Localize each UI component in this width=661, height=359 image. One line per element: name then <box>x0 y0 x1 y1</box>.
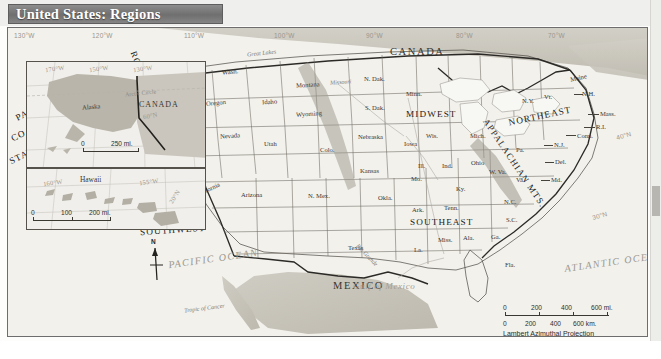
scrollbar-thumb[interactable] <box>652 186 660 216</box>
scale-tick-0 <box>505 312 506 316</box>
leader-line-nh <box>574 94 583 95</box>
state-label-va: Va. <box>516 176 525 183</box>
leader-line-ri <box>584 127 595 128</box>
map-page: United States: Regions <box>0 0 661 359</box>
compass-north-label: N <box>151 238 156 245</box>
hawaii-land-label: Hawaii <box>80 175 101 184</box>
state-label-idaho: Idaho <box>262 97 277 105</box>
leader-line-del <box>545 162 554 163</box>
state-label-ill: Ill. <box>418 162 426 169</box>
state-label-la: La. <box>414 246 423 253</box>
state-label-minn: Minn. <box>406 90 422 97</box>
lon-label-130w: 130°W <box>14 32 35 39</box>
scale-mi-200: 200 <box>531 304 542 311</box>
state-label-sdak: S. Dak. <box>365 104 385 111</box>
scale-tick-1 <box>539 312 540 316</box>
state-label-md: Md. <box>551 176 562 183</box>
scale-km-200: 200 <box>525 320 536 327</box>
country-label-canada: CANADA <box>390 46 445 57</box>
compass-rose: N <box>147 240 167 286</box>
lon-label-90w: 90°W <box>366 32 383 39</box>
state-label-ny: N.Y. <box>522 97 534 104</box>
state-label-nj: N.J. <box>554 141 565 148</box>
alaska-scale-tick-0 <box>83 148 84 152</box>
scale-km-0: 0 <box>503 320 507 327</box>
compass-needle-icon <box>147 240 167 282</box>
state-label-nevada: Nevada <box>220 131 241 139</box>
inset-map-alaska: 170°W 150°W 130°W 60°N Arctic Circle Ala… <box>26 61 206 168</box>
alaska-scale-bar: 0 250 mi. <box>81 140 151 156</box>
main-scale-bar: 0 200 400 600 mi. 0 200 400 600 km. Lamb… <box>503 304 628 336</box>
hawaii-scale-tick-2 <box>110 217 111 221</box>
page-title: United States: Regions <box>16 6 161 23</box>
state-label-nc: N.C. <box>504 198 516 205</box>
state-label-pa: Pa. <box>516 146 524 153</box>
state-label-conn: Conn. <box>577 132 593 139</box>
scale-mi-0: 0 <box>503 304 507 311</box>
hawaii-scale-0: 0 <box>31 209 35 216</box>
hawaii-scale-bar: 0 100 200 mi. <box>31 209 131 225</box>
state-label-ky: Ky. <box>456 185 465 192</box>
inset-map-hawaii: 160°W 155°W 20°N Hawaii 0 100 200 mi. <box>26 168 206 230</box>
scale-axis-line <box>505 315 609 316</box>
lon-label-110w: 110°W <box>184 32 204 39</box>
projection-label: Lambert Azimuthal Projection <box>503 330 594 336</box>
leader-line-mass <box>588 114 599 115</box>
state-label-iowa: Iowa <box>404 140 417 147</box>
hawaii-scale-tick-0 <box>33 217 34 221</box>
state-label-nmex: N. Mex. <box>308 192 330 199</box>
state-label-vt: Vt. <box>544 93 552 100</box>
hawaii-scale-200: 200 mi. <box>89 209 111 216</box>
state-label-del: Del. <box>555 158 566 165</box>
state-label-wis: Wis. <box>426 132 438 139</box>
state-label-ala: Ala. <box>463 234 474 241</box>
state-label-ark: Ark. <box>412 206 424 213</box>
leader-line-nj <box>544 145 553 146</box>
map-frame: 130°W 120°W 110°W 100°W 90°W 80°W 70°W 4… <box>7 27 648 337</box>
state-label-mass: Mass. <box>600 110 616 117</box>
region-label-southeast: SOUTHEAST <box>410 217 474 227</box>
leader-line-md <box>541 180 550 181</box>
lon-label-80w: 80°W <box>456 32 473 39</box>
alaska-scale-line <box>83 151 139 152</box>
footer-strip <box>0 341 661 359</box>
state-label-mo: Mo. <box>411 175 422 182</box>
alaska-scale-0: 0 <box>81 140 85 147</box>
state-label-tenn: Tenn. <box>444 204 459 211</box>
region-label-midwest: MIDWEST <box>406 109 457 119</box>
scale-km-600: 600 km. <box>573 320 596 327</box>
state-label-kansas: Kansas <box>360 167 379 174</box>
scale-mi-600: 600 mi. <box>591 304 613 311</box>
state-label-fla: Fla. <box>505 261 515 268</box>
gulf-label: Gulf of Mexico <box>353 281 415 291</box>
alaska-land-label: Alaska <box>82 102 101 110</box>
state-label-ndak: N. Dak. <box>364 75 385 82</box>
lon-label-120w: 120°W <box>92 32 113 39</box>
state-label-nh: N.H. <box>582 90 595 97</box>
map-title-banner: United States: Regions <box>8 4 223 24</box>
state-label-ri: R.I. <box>596 123 606 130</box>
state-label-wva: W. Va. <box>489 168 506 175</box>
state-label-ind: Ind. <box>442 162 452 169</box>
scrollbar-track[interactable] <box>650 0 661 359</box>
hawaii-scale-100: 100 <box>61 209 72 216</box>
state-label-arizona: Arizona <box>241 191 262 198</box>
scale-mi-400: 400 <box>561 304 572 311</box>
map-canvas: 130°W 120°W 110°W 100°W 90°W 80°W 70°W 4… <box>8 28 647 336</box>
state-label-mich: Mich. <box>470 132 486 139</box>
state-label-sc: S.C. <box>506 216 517 223</box>
scale-km-400: 400 <box>550 320 561 327</box>
scale-tick-3 <box>607 312 608 316</box>
state-label-okla: Okla. <box>378 194 392 201</box>
state-label-ga: Ga. <box>491 233 500 240</box>
lon-label-70w: 70°W <box>548 32 565 39</box>
state-label-miss: Miss. <box>438 236 452 243</box>
state-label-texas: Texas <box>348 244 363 251</box>
leader-line-conn <box>566 135 576 136</box>
hawaii-scale-tick-1 <box>72 217 73 221</box>
state-label-nebraska: Nebraska <box>358 133 383 140</box>
state-label-colo: Colo. <box>320 146 334 153</box>
lon-label-100w: 100°W <box>274 32 295 39</box>
scale-tick-2 <box>573 312 574 316</box>
alaska-scale-250: 250 mi. <box>111 140 133 147</box>
